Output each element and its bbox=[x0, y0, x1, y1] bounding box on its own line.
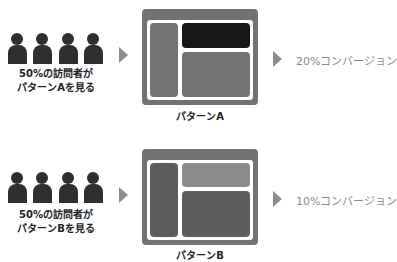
arrow-right-icon bbox=[119, 47, 128, 63]
conversion-label-a: 20%コンバージョン bbox=[296, 52, 397, 68]
arrow-right-icon bbox=[273, 51, 282, 67]
person-icon bbox=[84, 33, 103, 64]
person-icon bbox=[8, 172, 27, 203]
caption-line2: パターンBを見る bbox=[0, 222, 116, 236]
sidebar-panel bbox=[150, 23, 178, 97]
caption-line2: パターンAを見る bbox=[0, 81, 116, 95]
conversion-label-b: 10%コンバージョン bbox=[296, 192, 397, 208]
header-panel bbox=[182, 163, 250, 187]
caption-line1: 50%の訪問者が bbox=[0, 208, 116, 222]
arrow-right-icon bbox=[273, 191, 282, 207]
visitor-caption-b: 50%の訪問者が パターンBを見る bbox=[0, 208, 116, 236]
person-icon bbox=[33, 172, 52, 203]
person-icon bbox=[59, 33, 78, 64]
page-content-area bbox=[147, 160, 253, 240]
visitor-caption-a: 50%の訪問者が パターンAを見る bbox=[0, 67, 116, 95]
page-content-area bbox=[147, 20, 253, 100]
pattern-label-a: パターンA bbox=[142, 108, 258, 123]
highlight-panel bbox=[182, 23, 250, 48]
page-mockup-a bbox=[142, 9, 258, 105]
main-panel bbox=[182, 52, 250, 97]
person-icon bbox=[59, 172, 78, 203]
page-mockup-b bbox=[142, 149, 258, 245]
sidebar-panel bbox=[150, 163, 178, 237]
caption-line1: 50%の訪問者が bbox=[0, 67, 116, 81]
pattern-label-b: パターンB bbox=[142, 247, 258, 262]
arrow-right-icon bbox=[119, 187, 128, 203]
main-panel bbox=[182, 191, 250, 237]
person-icon bbox=[33, 33, 52, 64]
person-icon bbox=[8, 33, 27, 64]
person-icon bbox=[84, 172, 103, 203]
